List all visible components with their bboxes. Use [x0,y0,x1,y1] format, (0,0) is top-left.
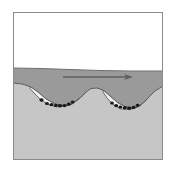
pebble-clast [132,106,136,109]
diagram-figure [0,0,175,170]
pebble-clast [45,102,49,105]
pebble-clast [123,106,127,109]
pebble-clast [118,105,122,108]
diagram-content [13,12,163,160]
pebble-clast [71,101,75,104]
pebble-clast [62,104,66,107]
pebble-clast [54,104,58,107]
pebble-clast [127,107,131,110]
cross-section-diagram [0,0,175,170]
pebble-clast [136,104,140,107]
pebble-clast [110,102,114,105]
pebble-clast [67,103,71,106]
pebble-clast [58,104,62,108]
pebble-clast [50,103,54,106]
pebble-clast [39,98,43,101]
pebble-clast [114,104,118,107]
